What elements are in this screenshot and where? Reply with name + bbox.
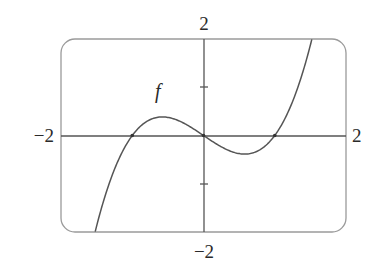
x-intercept-point [130, 134, 134, 138]
function-plot: 2 −2 −2 2 f [0, 0, 383, 273]
x-intercept-point [202, 134, 206, 138]
y-max-label: 2 [199, 13, 209, 34]
x-max-label: 2 [352, 125, 362, 146]
x-intercept-point [273, 134, 277, 138]
y-min-label: −2 [194, 241, 214, 262]
x-min-label: −2 [34, 125, 54, 146]
function-label-f: f [155, 80, 163, 103]
